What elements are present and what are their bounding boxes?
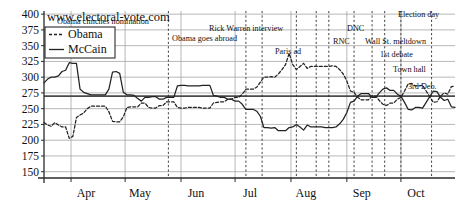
event-label: Election day — [398, 10, 440, 19]
y-axis-tick-label: 350 — [22, 40, 40, 52]
x-axis-tick-label: Jul — [243, 186, 258, 200]
electoral-vote-chart: 150175200225250275300325350375400AprMayJ… — [0, 0, 461, 206]
event-label: 1st debate — [380, 50, 413, 59]
event-label: Paris ad — [275, 47, 301, 56]
y-axis-tick-label: 200 — [22, 134, 40, 146]
x-axis-tick-label: Aug — [296, 186, 317, 200]
y-axis-tick-label: 400 — [22, 8, 40, 20]
event-label: Rick Warren interview — [209, 24, 283, 33]
x-axis-tick-label: Jun — [188, 186, 205, 200]
event-label: Obama clinches nomination — [57, 17, 149, 26]
y-axis-tick-label: 325 — [22, 55, 40, 67]
legend-label-mccain: McCain — [68, 42, 107, 56]
y-axis-tick-label: 225 — [22, 118, 40, 130]
event-label: DNC — [347, 24, 365, 33]
legend-label-obama: Obama — [68, 27, 103, 41]
event-label: 3rd Deb. — [408, 82, 437, 91]
chart-canvas: 150175200225250275300325350375400AprMayJ… — [0, 0, 461, 206]
y-axis-tick-label: 375 — [22, 24, 40, 36]
y-axis-tick-label: 150 — [22, 166, 40, 178]
y-axis-tick-label: 300 — [22, 71, 40, 83]
y-axis-tick-label: 175 — [22, 150, 40, 162]
x-axis-tick-label: Oct — [407, 186, 425, 200]
event-label: Wall St. meltdown — [365, 37, 426, 46]
x-axis-tick-label: May — [129, 186, 151, 200]
event-label: Obama goes abroad — [172, 34, 237, 43]
event-label: RNC — [333, 37, 350, 46]
y-axis-tick-label: 275 — [22, 87, 40, 99]
event-label: Town hall — [393, 65, 427, 74]
x-axis-tick-label: Apr — [77, 186, 96, 200]
x-axis-tick-label: Sep — [353, 186, 371, 200]
y-axis-tick-label: 250 — [22, 103, 40, 115]
